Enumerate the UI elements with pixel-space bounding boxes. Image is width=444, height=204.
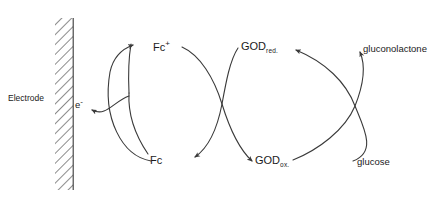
ferrocenium-label: Fc+: [153, 42, 170, 53]
electron-label: e-: [75, 100, 83, 110]
arrow-glucose-to-godred: [296, 50, 367, 161]
curve-mediator-to-electron-branch: [129, 93, 148, 154]
diagram-canvas: Electrode e- Fc+ Fc GODred. GODox. gluco…: [0, 0, 444, 204]
arrow-godred-to-fc: [195, 48, 238, 157]
glucose-label: glucose: [357, 157, 390, 167]
electrode-hatch-fill: [55, 18, 73, 190]
electrode-bar: [55, 18, 73, 190]
god-oxidised-label: GODox.: [255, 155, 289, 166]
ferrocene-label: Fc: [150, 155, 162, 166]
god-reduced-base: GOD: [241, 40, 266, 52]
gluconolactone-label: gluconolactone: [363, 44, 427, 54]
electron-charge-superscript: -: [80, 97, 83, 106]
god-reduced-label: GODred.: [241, 41, 278, 52]
arrow-godox-to-gluconolactone: [293, 52, 363, 160]
reaction-scheme-svg: [0, 0, 444, 204]
god-oxidised-base: GOD: [255, 154, 280, 166]
electrode-label: Electrode: [8, 94, 44, 103]
ferrocenium-charge-superscript: +: [165, 39, 170, 48]
god-oxidised-subscript: ox.: [280, 161, 289, 168]
arrow-electron-to-electrode: [92, 96, 129, 112]
god-reduced-subscript: red.: [266, 47, 278, 54]
ferrocenium-symbol: Fc: [153, 41, 165, 53]
curve-mediator-inner-upper: [129, 44, 131, 93]
arrow-fcplus-to-godox: [182, 47, 252, 161]
